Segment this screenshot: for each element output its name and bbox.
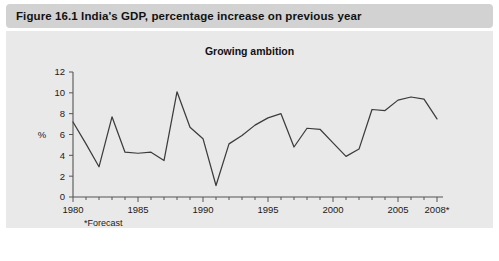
figure-caption: Figure 16.1 India's GDP, percentage incr… — [6, 10, 361, 22]
figure-caption-bar: Figure 16.1 India's GDP, percentage incr… — [6, 4, 493, 28]
x-tick-label: 1980 — [62, 204, 83, 215]
y-tick-label: 4 — [60, 150, 65, 161]
y-tick-label: 12 — [54, 66, 65, 77]
chart-panel: Growing ambition 024681012 1980198519901… — [6, 31, 493, 228]
y-axis: 024681012 — [54, 66, 73, 202]
x-tick-label: 1990 — [192, 204, 213, 215]
x-tick-label: 2008* — [425, 204, 450, 215]
y-axis-title: % — [38, 129, 47, 140]
y-tick-label: 2 — [60, 171, 65, 182]
x-tick-label: 2000 — [322, 204, 343, 215]
y-tick-label: 8 — [60, 108, 65, 119]
chart-footnote: *Forecast — [84, 218, 123, 228]
line-chart: 024681012 1980198519901995200020052008* … — [6, 31, 493, 228]
y-tick-label: 6 — [60, 129, 65, 140]
x-tick-label: 2005 — [387, 204, 408, 215]
x-tick-label: 1985 — [127, 204, 148, 215]
y-tick-label: 10 — [54, 87, 65, 98]
data-series-line — [73, 92, 437, 186]
y-tick-label: 0 — [60, 191, 65, 202]
figure-container: Figure 16.1 India's GDP, percentage incr… — [0, 0, 499, 261]
x-tick-label: 1995 — [257, 204, 278, 215]
x-axis: 1980198519901995200020052008* — [62, 197, 449, 215]
